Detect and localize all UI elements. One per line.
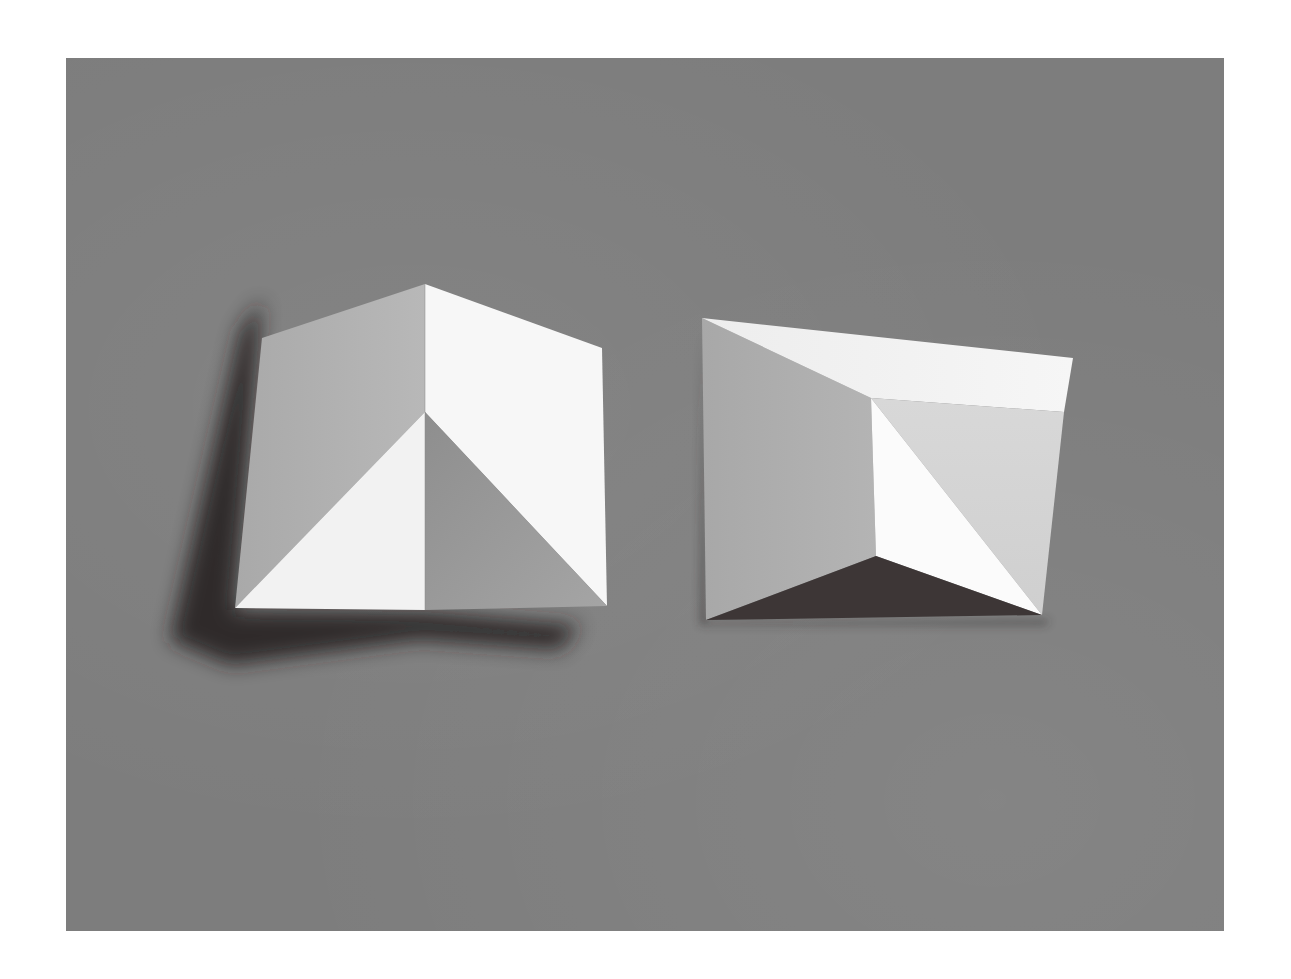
folded-paper-scene xyxy=(66,58,1224,931)
photo-background xyxy=(66,58,1224,931)
right-folded-paper xyxy=(700,318,1073,625)
left-folded-paper xyxy=(170,284,607,665)
